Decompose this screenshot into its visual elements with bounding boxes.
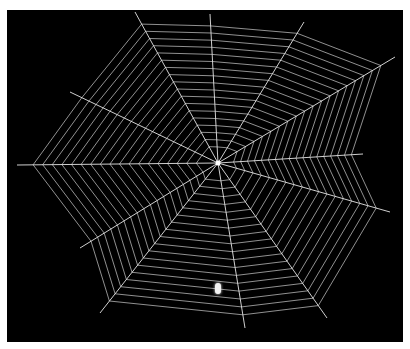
spider [215,283,221,294]
spider-web-graphic [0,0,410,349]
